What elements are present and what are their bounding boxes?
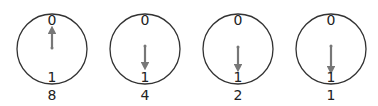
dial-caption: 2 — [234, 87, 243, 103]
dial-3: 0 1 2 — [203, 12, 273, 103]
dial-2: 0 1 4 — [110, 12, 180, 103]
dial-diagram: 0 1 8 0 1 4 0 1 2 0 1 1 — [0, 0, 378, 106]
dial-bottom-label: 1 — [327, 69, 336, 85]
arrow-tail-dot — [51, 47, 54, 50]
dial-1: 0 1 8 — [17, 12, 87, 103]
dial-bottom-label: 1 — [48, 69, 57, 85]
dial-caption: 8 — [48, 87, 57, 103]
dial-bottom-label: 1 — [234, 69, 243, 85]
dial-top-label: 0 — [234, 12, 243, 28]
dial-top-label: 0 — [141, 12, 150, 28]
arrow-tail-dot — [330, 45, 333, 48]
dial-4: 0 1 1 — [296, 12, 366, 103]
arrow-tail-dot — [144, 45, 147, 48]
dial-caption: 4 — [141, 87, 150, 103]
dial-bottom-label: 1 — [141, 69, 150, 85]
dial-caption: 1 — [327, 87, 336, 103]
arrow-tail-dot — [237, 46, 240, 49]
dial-top-label: 0 — [48, 12, 57, 28]
dial-top-label: 0 — [327, 12, 336, 28]
